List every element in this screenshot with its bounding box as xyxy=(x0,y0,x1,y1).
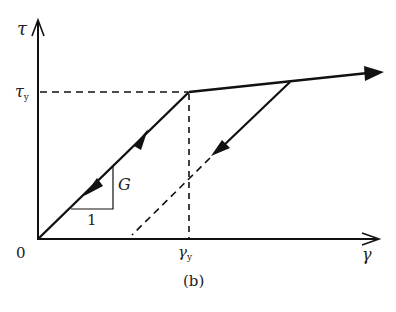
yield-strain-subscript: y xyxy=(187,252,192,262)
yield-stress-label: τy xyxy=(15,82,29,102)
origin-label: 0 xyxy=(16,244,26,262)
unloading-solid-line xyxy=(222,82,290,147)
strain-hardening-line xyxy=(189,73,368,92)
slope-rise-label: G xyxy=(118,175,131,194)
diagram-canvas: τ τy G 1 0 γy γ (b) xyxy=(0,0,396,312)
y-axis-label: τ xyxy=(17,18,27,39)
x-axis xyxy=(38,233,379,245)
unloading-down-arrow-icon xyxy=(84,178,103,196)
y-axis xyxy=(32,20,44,240)
stress-strain-plot xyxy=(0,0,396,312)
yield-stress-subscript: y xyxy=(24,92,29,102)
elastic-loading-line xyxy=(38,92,189,239)
figure-caption: (b) xyxy=(183,272,204,290)
slope-run-label: 1 xyxy=(87,211,97,229)
yield-strain-symbol: γ xyxy=(178,243,187,261)
hardening-arrow-icon xyxy=(364,66,384,81)
loading-up-arrow-icon xyxy=(134,129,148,150)
yield-stress-symbol: τ xyxy=(15,82,24,101)
unloading-dashed-line xyxy=(132,158,210,235)
x-axis-label: γ xyxy=(362,245,372,264)
yield-strain-label: γy xyxy=(178,243,192,262)
